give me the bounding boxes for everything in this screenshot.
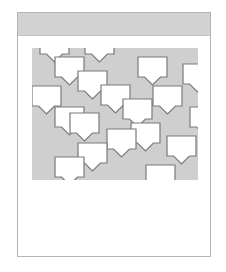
speech-bubble-icon: [138, 57, 167, 85]
speech-bubbles-illustration: [32, 48, 198, 180]
speech-bubble-icon: [85, 48, 114, 62]
speech-bubble-icon: [167, 136, 196, 164]
speech-bubble-icon: [55, 157, 84, 180]
speech-bubble-icon: [70, 113, 99, 141]
header-bar: [18, 13, 210, 36]
speech-bubble-icon: [183, 64, 198, 92]
window-frame: [17, 12, 211, 257]
speech-bubble-icon: [153, 86, 182, 114]
bubble-canvas: [32, 48, 198, 180]
speech-bubble-icon: [190, 107, 198, 135]
speech-bubble-icon: [146, 165, 175, 180]
speech-bubble-icon: [107, 129, 136, 157]
